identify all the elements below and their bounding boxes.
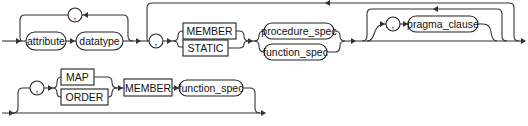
arrow-left-icon <box>433 6 438 12</box>
pragma-exit-line <box>478 24 497 41</box>
arrow-right-icon <box>118 85 123 91</box>
arrow-right-icon <box>48 85 53 91</box>
arrow-right-icon <box>351 38 356 44</box>
merge-line <box>236 31 249 41</box>
order-keyword-label: ORDER <box>66 91 104 103</box>
arrow-right-icon <box>380 21 385 27</box>
arrow-left-icon <box>83 12 88 18</box>
merge-line <box>228 41 249 48</box>
function-spec-label: function_spec <box>263 46 328 58</box>
arrow-right-icon <box>70 38 75 44</box>
static-keyword-label: STATIC <box>188 42 224 54</box>
branch-line <box>53 77 61 88</box>
arrow-left-icon <box>325 0 330 6</box>
arrow-right-icon <box>136 38 141 44</box>
arrow-right-icon <box>167 38 172 44</box>
datatype-label: datatype <box>79 35 119 47</box>
merge-line <box>94 77 117 88</box>
function-spec-label: function_spec <box>179 82 244 94</box>
merge-line <box>327 41 345 52</box>
map-keyword-label: MAP <box>66 71 89 83</box>
optional-exit-line <box>243 88 260 113</box>
pragma-entry-line <box>367 24 386 41</box>
merge-line <box>108 88 117 97</box>
member-keyword-label: MEMBER <box>186 25 233 37</box>
member-keyword-label: MEMBER <box>125 82 172 94</box>
comma-label: , <box>155 36 158 47</box>
comma-label: , <box>392 19 395 30</box>
optional-entry-line <box>13 88 30 113</box>
branch-line <box>53 88 61 97</box>
syntax-diagram: , attribute datatype , MEMBER STATIC <box>0 0 528 126</box>
branch-line <box>173 31 183 41</box>
arrow-right-icon <box>248 38 253 44</box>
procedure-spec-label: procedure_spec <box>261 25 336 37</box>
pragma-clause-label: pragma_clause <box>407 18 479 30</box>
attribute-label: attribute <box>27 35 65 47</box>
comma-label: , <box>36 83 39 94</box>
comma-label: , <box>74 10 77 21</box>
row-2: , MAP ORDER MEMBER function_spec <box>2 69 266 116</box>
branch-line <box>173 41 183 47</box>
arrow-right-icon <box>521 38 526 44</box>
arrow-right-icon <box>261 110 266 116</box>
row-1: , attribute datatype , MEMBER STATIC <box>2 0 526 60</box>
